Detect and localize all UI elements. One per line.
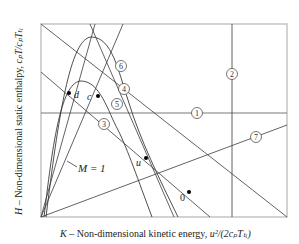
line-3-marker: 3 (99, 119, 110, 130)
point-u (144, 156, 148, 160)
line-4-marker: 4 (119, 84, 130, 95)
svg-text:4: 4 (122, 85, 126, 94)
svg-text:1: 1 (195, 109, 199, 118)
point-c-label: c (87, 91, 92, 102)
mach-one-label: M = 1 (77, 162, 106, 174)
line-2-marker: 2 (227, 69, 238, 80)
svg-text:5: 5 (115, 100, 119, 109)
point-d (67, 91, 71, 95)
point-c (96, 94, 100, 98)
line-through-c (41, 24, 123, 217)
x-axis-label: K – Non-dimensional kinetic energy, u²/(… (59, 228, 251, 240)
svg-text:3: 3 (102, 120, 106, 129)
line-1-marker: 1 (192, 108, 203, 119)
point-d-label: d (74, 89, 80, 100)
point-0-label: 0 (180, 192, 185, 203)
line-7-marker: 7 (251, 132, 262, 143)
point-0 (187, 190, 191, 194)
mach-one-line (41, 24, 95, 217)
svg-text:6: 6 (119, 62, 123, 71)
line-5-marker: 5 (112, 99, 123, 110)
mach-label-leader (67, 161, 77, 167)
point-u-label: u (136, 157, 141, 168)
y-axis-label: H – Non-dimensional static enthalpy, cₚT… (13, 28, 24, 216)
enthalpy-kinetic-energy-diagram: 1 2 3 4 5 6 7 c d u 0 M = 1 K – Non-dime… (0, 0, 299, 244)
line-6-marker: 6 (116, 61, 127, 72)
svg-text:7: 7 (254, 133, 258, 142)
svg-text:2: 2 (230, 70, 234, 79)
